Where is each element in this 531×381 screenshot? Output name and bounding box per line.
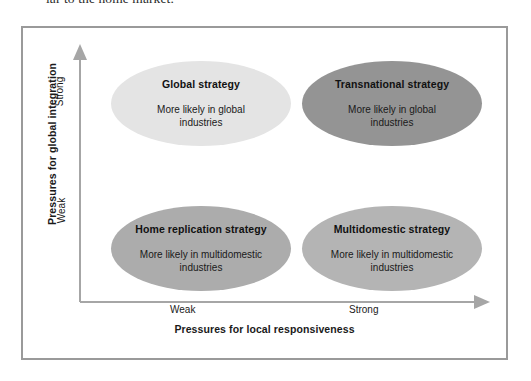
- quadrant-title: Transnational strategy: [335, 78, 449, 90]
- quadrant-multidomestic-strategy: Multidomestic strategy More likely in mu…: [302, 206, 482, 291]
- x-axis-title: Pressures for local responsiveness: [23, 323, 506, 335]
- quadrant-subtitle: More likely in multidomestic industries: [326, 248, 458, 274]
- y-axis-tick-strong: Strong: [54, 77, 65, 106]
- quadrant-title: Multidomestic strategy: [334, 223, 451, 235]
- x-axis-tick-strong: Strong: [349, 304, 378, 315]
- quadrant-title: Global strategy: [162, 78, 240, 90]
- right-arrow-icon: [474, 295, 490, 309]
- strategy-matrix-plot: Pressures for global integration Strong …: [23, 28, 506, 358]
- quadrant-transnational-strategy: Transnational strategy More likely in gl…: [302, 61, 482, 146]
- x-axis-tick-weak: Weak: [170, 304, 195, 315]
- up-arrow-icon: [73, 44, 87, 60]
- page-body-text: lar to the home market.: [46, 0, 174, 7]
- quadrant-home-replication-strategy: Home replication strategy More likely in…: [111, 206, 291, 291]
- y-axis-tick-weak: Weak: [56, 198, 67, 223]
- figure-frame: Pressures for global integration Strong …: [21, 26, 508, 360]
- quadrant-subtitle: More likely in global industries: [135, 103, 267, 129]
- quadrant-subtitle: More likely in multidomestic industries: [135, 248, 267, 274]
- quadrant-title: Home replication strategy: [135, 223, 266, 235]
- quadrant-global-strategy: Global strategy More likely in global in…: [111, 61, 291, 146]
- quadrant-subtitle: More likely in global industries: [326, 103, 458, 129]
